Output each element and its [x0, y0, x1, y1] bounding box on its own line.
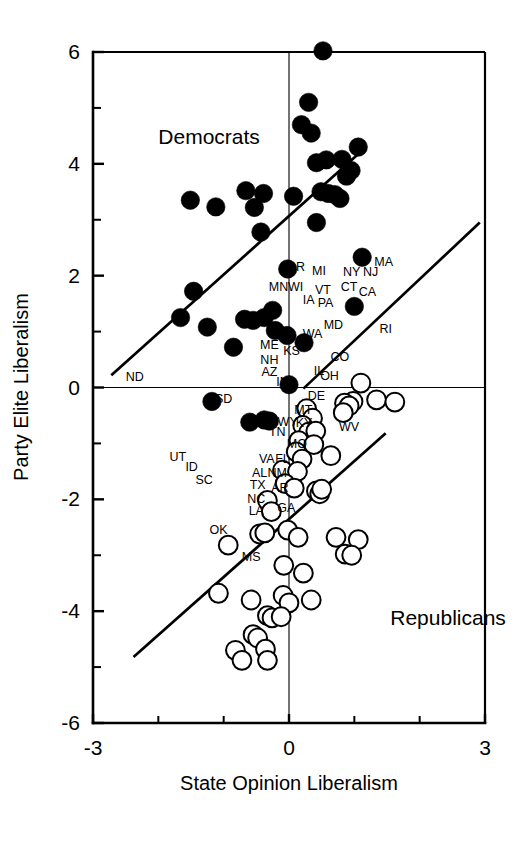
data-point-democrat	[252, 223, 270, 241]
state-label: CA	[359, 285, 377, 299]
data-point-republican	[233, 651, 252, 670]
state-label: WV	[339, 420, 360, 434]
data-point-democrat	[299, 93, 317, 111]
state-label: MI	[312, 264, 326, 278]
data-point-republican	[302, 591, 321, 610]
state-label: SD	[215, 392, 232, 406]
data-point-democrat	[345, 297, 363, 315]
state-label: ME	[260, 338, 279, 352]
democrats-group-label: Democrats	[158, 125, 260, 148]
y-tick-label: 4	[68, 152, 80, 175]
state-label: NY	[343, 265, 361, 279]
y-tick-label: -4	[61, 599, 80, 622]
state-label: IN	[276, 375, 289, 389]
state-label: MS	[242, 550, 261, 564]
y-tick-label: 0	[68, 376, 80, 399]
y-tick-label: 2	[68, 264, 80, 287]
state-label: KS	[283, 344, 300, 358]
data-point-republican	[367, 390, 386, 409]
data-point-republican	[274, 556, 293, 575]
state-label: OH	[320, 369, 339, 383]
data-point-democrat	[224, 338, 242, 356]
y-tick-label: -2	[61, 487, 80, 510]
republicans-group-label: Republicans	[390, 606, 506, 629]
data-point-democrat	[337, 167, 355, 185]
data-point-republican	[385, 393, 404, 412]
state-label: RI	[379, 322, 392, 336]
state-label: NM	[268, 466, 287, 480]
data-point-democrat	[181, 191, 199, 209]
y-tick-label: -6	[61, 711, 80, 734]
state-label: FL	[275, 452, 290, 466]
state-label: CO	[331, 350, 350, 364]
data-point-democrat	[307, 213, 325, 231]
data-point-democrat	[184, 282, 202, 300]
data-point-republican	[312, 480, 331, 499]
state-label: CT	[341, 280, 358, 294]
data-point-democrat	[237, 181, 255, 199]
data-point-democrat	[302, 124, 320, 142]
data-point-republican	[342, 546, 361, 565]
data-point-democrat	[353, 248, 371, 266]
data-point-republican	[327, 528, 346, 547]
state-label: MO	[287, 437, 307, 451]
state-label: PA	[318, 296, 334, 310]
data-point-democrat	[245, 198, 263, 216]
data-point-republican	[242, 591, 261, 610]
state-label: SC	[195, 473, 212, 487]
x-tick-label: -3	[84, 736, 103, 759]
state-label: TN	[269, 425, 286, 439]
data-point-democrat	[278, 326, 296, 344]
data-point-democrat	[284, 187, 302, 205]
data-point-democrat	[349, 138, 367, 156]
data-point-republican	[351, 374, 370, 393]
state-label: MN	[269, 280, 288, 294]
state-label: DE	[308, 389, 325, 403]
state-label: MA	[374, 255, 393, 269]
state-label: ND	[126, 370, 144, 384]
data-point-democrat	[207, 198, 225, 216]
data-point-democrat	[331, 189, 349, 207]
state-label: OR	[286, 260, 305, 274]
data-point-republican	[321, 446, 340, 465]
data-point-republican	[294, 564, 313, 583]
data-point-republican	[289, 528, 308, 547]
y-tick-label: 6	[68, 40, 80, 63]
state-label: GA	[277, 501, 296, 515]
y-axis-title: Party Elite Liberalism	[10, 293, 32, 481]
state-label: WA	[303, 327, 323, 341]
x-axis-title: State Opinion Liberalism	[180, 772, 398, 794]
state-label: VT	[315, 283, 331, 297]
scatter-plot-figure: -3036420-2-4-6 NDORMNWIMIIAVTPANYNJMACTC…	[0, 0, 525, 842]
data-point-republican	[209, 584, 228, 603]
state-label: KY	[296, 416, 313, 430]
data-point-democrat	[198, 318, 216, 336]
state-label: LA	[249, 504, 265, 518]
x-tick-label: 0	[283, 736, 295, 759]
data-point-republican	[272, 607, 291, 626]
data-point-democrat	[235, 310, 253, 328]
state-label: IA	[303, 293, 315, 307]
party-elite-liberalism-scatter: -3036420-2-4-6 NDORMNWIMIIAVTPANYNJMACTC…	[0, 0, 525, 842]
data-point-republican	[255, 523, 274, 542]
x-tick-label: 3	[479, 736, 491, 759]
state-label: VA	[259, 452, 275, 466]
state-label: UT	[170, 450, 187, 464]
data-point-republican	[219, 536, 238, 555]
state-label: WI	[288, 280, 303, 294]
state-label: MD	[324, 318, 343, 332]
data-point-republican	[258, 651, 277, 670]
data-point-democrat	[171, 308, 189, 326]
state-label: OK	[209, 523, 228, 537]
state-label: AR	[271, 481, 288, 495]
data-point-democrat	[314, 42, 332, 60]
state-label: TX	[250, 478, 267, 492]
